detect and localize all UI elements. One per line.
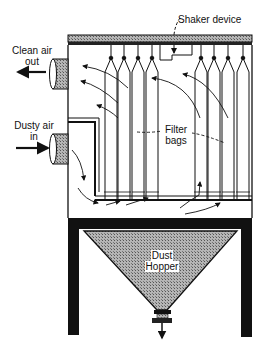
filter-bag — [132, 45, 144, 200]
dust-hopper-label-line1: Dust — [151, 250, 174, 261]
dusty-air-label: Dusty air in — [12, 120, 56, 142]
clean-air-label: Clean air out — [12, 45, 52, 67]
filter-bags-label: Filter bags — [160, 124, 192, 146]
filter-bag — [105, 45, 117, 200]
discharge-valve — [152, 310, 172, 338]
filter-bag — [146, 45, 158, 200]
filter-bags — [105, 45, 249, 200]
clean-air-label-line1: Clean air — [12, 45, 52, 56]
filter-bag — [208, 45, 220, 200]
shaker-device-label: Shaker device — [178, 14, 241, 25]
filter-bag — [222, 45, 234, 200]
clean-air-label-line2: out — [12, 56, 52, 67]
dusty-air-label-line1: Dusty air — [12, 120, 56, 131]
filter-bags-label-line1: Filter — [160, 124, 192, 135]
dusty-air-label-line2: in — [12, 131, 56, 142]
filter-bag — [118, 45, 130, 200]
dust-hopper-label: Dust Hopper — [144, 250, 180, 272]
filter-bag — [237, 45, 249, 200]
filter-bags-label-line2: bags — [160, 135, 192, 146]
dust-hopper-label-line2: Hopper — [145, 261, 180, 272]
top-beam — [68, 35, 252, 45]
filter-bag — [195, 45, 207, 200]
